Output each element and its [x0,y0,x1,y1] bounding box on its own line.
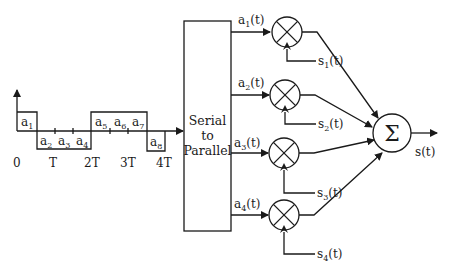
waveform-plot: a1 a2 a3 a4 a5 a6 a7 a8 0 T 2T 3T 4T [13,90,183,170]
symbol-a8: a8 [150,135,162,151]
tick-2T: 2T [84,156,100,170]
output-label: s(t) [415,145,435,159]
input-a3-label: a3(t) [234,136,260,152]
symbol-a4: a4 [76,134,88,150]
summer-block: Σ s(t) [373,114,437,159]
tick-T: T [49,156,57,170]
tick-3T: 3T [120,156,136,170]
carrier-s4-label: s4(t) [317,247,342,263]
carrier-s1-label: s1(t) [318,54,343,70]
carrier-s3-label: s3(t) [317,186,342,202]
converter-label-line2: to [201,128,214,143]
symbol-a7: a7 [132,115,144,131]
branch-3: a3(t) s3(t) [231,136,374,202]
serial-to-parallel-block: Serial to Parallel [183,21,231,231]
input-a1-label: a1(t) [238,13,264,29]
tick-0: 0 [13,156,21,170]
carrier-s2-label: s2(t) [318,117,343,133]
symbol-a2: a2 [40,134,52,150]
converter-label-line1: Serial [189,113,226,128]
branch-1: a1(t) s1(t) [231,13,378,118]
converter-label-line3: Parallel [183,143,231,158]
input-a2-label: a2(t) [238,76,264,92]
symbol-a5: a5 [95,115,107,131]
tick-4T: 4T [156,156,172,170]
symbol-a3: a3 [58,134,70,150]
input-a4-label: a4(t) [234,197,260,213]
branch-4: a4(t) s4(t) [231,153,382,263]
branch-2: a2(t) s2(t) [231,76,372,133]
symbol-a6: a6 [114,115,126,131]
sigma-icon: Σ [384,121,400,146]
symbol-a1: a1 [21,115,33,131]
